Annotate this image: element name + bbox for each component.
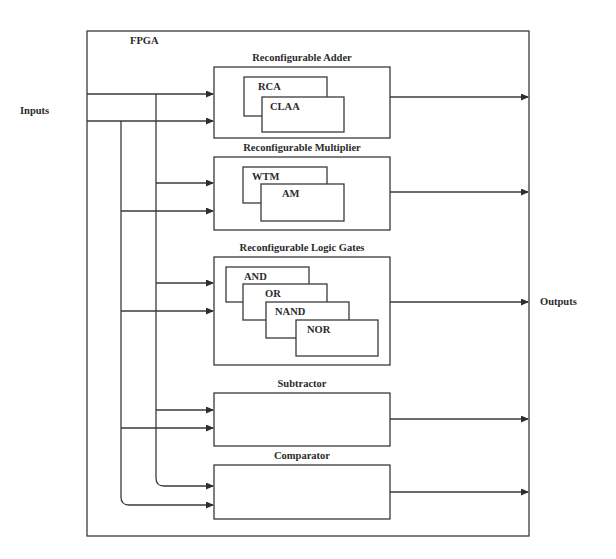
fpga-architecture-diagram: FPGA Inputs Outputs Reconfigurable Adder… (0, 0, 616, 559)
outputs-label: Outputs (540, 297, 577, 308)
comparator-block (214, 465, 390, 519)
rca-label: RCA (258, 82, 281, 93)
and-label: AND (244, 272, 267, 283)
subtractor-title: Subtractor (278, 379, 327, 390)
nor-label: NOR (307, 325, 330, 336)
comparator-title: Comparator (274, 451, 330, 462)
wtm-label: WTM (252, 172, 279, 183)
diagram-canvas (0, 0, 616, 559)
subtractor-block (214, 393, 390, 446)
am-unit-box (261, 184, 344, 221)
am-label: AM (282, 189, 300, 200)
fpga-label: FPGA (130, 36, 159, 47)
adder-title: Reconfigurable Adder (252, 53, 351, 64)
nand-label: NAND (275, 307, 305, 318)
claa-label: CLAA (270, 102, 300, 113)
input-bus (87, 94, 213, 505)
or-label: OR (265, 289, 281, 300)
logic-gates-title: Reconfigurable Logic Gates (240, 243, 365, 254)
multiplier-title: Reconfigurable Multiplier (243, 143, 361, 154)
inputs-label: Inputs (20, 106, 49, 117)
output-bus (390, 97, 528, 492)
